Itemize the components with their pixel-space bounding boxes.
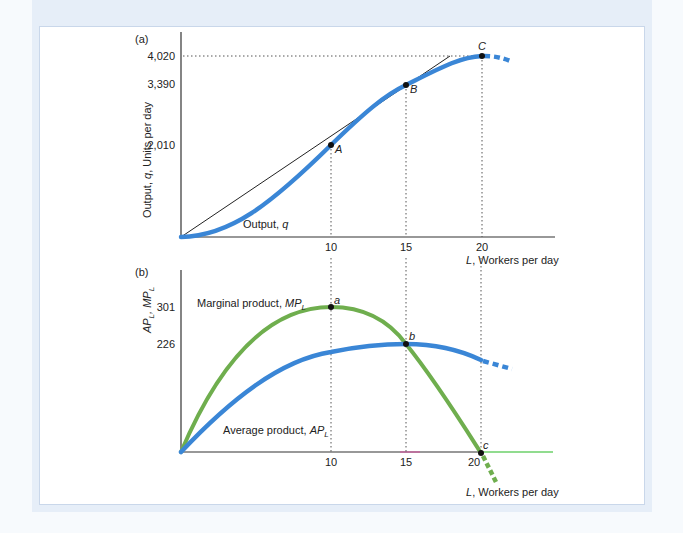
point-A [328, 142, 334, 148]
panel-b-x-axis-label: L, Workers per day [466, 486, 559, 498]
point-B-label: B [410, 83, 417, 95]
point-A-label: A [334, 143, 342, 155]
panel-a-x-tick: 15 [400, 241, 412, 253]
point-B [403, 82, 409, 88]
point-c-label: c [483, 439, 489, 451]
panel-a-y-axis-label: Output, q, Units per day [141, 101, 153, 218]
panel-a-y-tick: 2,010 [147, 139, 175, 151]
panel-a-label: (a) [135, 33, 148, 45]
panel-b-y-tick: 226 [157, 338, 175, 350]
marginal-product-label: Marginal product, MPL [197, 297, 306, 312]
panel-a: (a) Output, q, Units per day 4,020 3,390… [135, 32, 559, 266]
output-curve-dashed [484, 56, 513, 62]
panel-b-x-tick: 20 [468, 456, 480, 468]
panel-b-y-axis-label: APL, MPL [141, 287, 156, 334]
panel-a-y-tick: 4,020 [147, 50, 175, 62]
marginal-product-curve-dashed [483, 456, 497, 484]
panel-b-x-tick: 10 [325, 456, 337, 468]
output-curve-label: Output, q [243, 218, 289, 230]
average-product-curve-dashed [483, 361, 512, 369]
panel-b-y-tick: 301 [157, 301, 175, 313]
panel-b: (b) APL, MPL 301 226 10 15 20 L, Workers… [135, 258, 559, 498]
panel-a-y-tick: 3,390 [147, 78, 175, 90]
panel-a-x-axis-label: L, Workers per day [466, 254, 559, 266]
panel-a-x-tick: 10 [325, 241, 337, 253]
panel-b-label: (b) [135, 266, 148, 278]
point-a-label: a [334, 294, 340, 306]
panel-a-x-tick: 20 [476, 241, 488, 253]
point-C [479, 53, 485, 59]
average-product-label: Average product, APL [223, 424, 329, 439]
point-C-label: C [478, 40, 486, 52]
point-b-label: b [409, 330, 415, 342]
production-charts: (a) Output, q, Units per day 4,020 3,390… [0, 0, 683, 533]
panel-b-x-tick: 15 [400, 456, 412, 468]
